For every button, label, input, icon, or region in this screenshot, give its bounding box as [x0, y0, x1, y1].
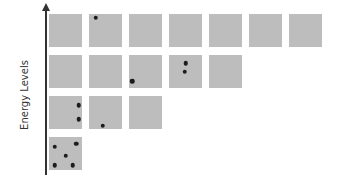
arrow-up-icon — [42, 3, 50, 11]
energy-state-square — [129, 96, 162, 129]
energy-state-square — [209, 14, 242, 47]
particle-dot — [74, 141, 79, 146]
energy-state-square — [49, 137, 82, 170]
particle-dot — [130, 79, 135, 84]
energy-state-square — [169, 14, 202, 47]
particle-dot — [63, 154, 68, 159]
particle-dot — [76, 117, 81, 122]
energy-state-square — [89, 14, 122, 47]
energy-state-square — [49, 96, 82, 129]
energy-state-square — [89, 96, 122, 129]
particle-dot — [71, 163, 76, 168]
energy-state-square — [129, 55, 162, 88]
energy-state-square — [129, 14, 162, 47]
energy-state-square — [49, 55, 82, 88]
energy-axis — [45, 8, 47, 175]
particle-dot — [76, 103, 81, 108]
particle-dot — [183, 69, 188, 74]
energy-state-square — [249, 14, 282, 47]
particle-dot — [183, 61, 188, 66]
energy-state-square — [209, 55, 242, 88]
particle-dot — [101, 123, 106, 128]
energy-state-square — [289, 14, 322, 47]
energy-state-square — [169, 55, 202, 88]
energy-state-square — [49, 14, 82, 47]
energy-state-square — [89, 55, 122, 88]
axis-label: Energy Levels — [19, 60, 30, 130]
particle-dot — [52, 163, 57, 168]
particle-dot — [93, 16, 98, 21]
particle-dot — [52, 145, 57, 150]
